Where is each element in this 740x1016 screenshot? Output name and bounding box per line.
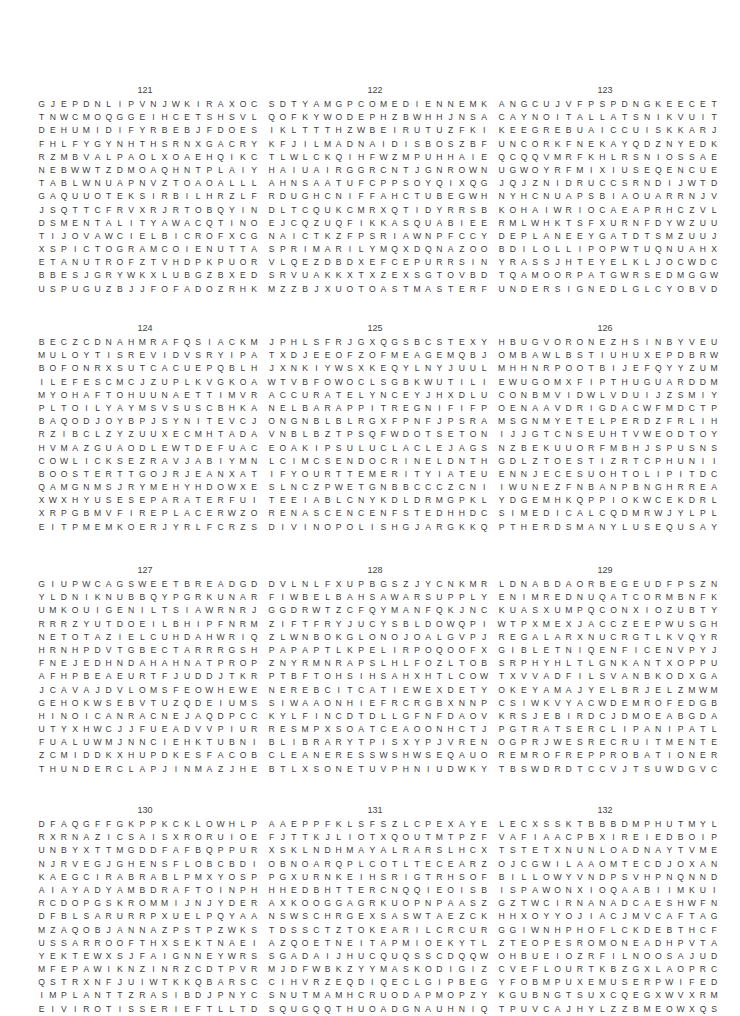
- grid-letter: P: [170, 591, 181, 604]
- grid-letter: D: [586, 710, 597, 723]
- grid-letter: J: [47, 98, 58, 111]
- grid-letter: O: [344, 723, 355, 736]
- grid-letter: S: [159, 684, 170, 697]
- grid-letter: P: [204, 362, 215, 375]
- grid-letter: S: [423, 591, 434, 604]
- grid-letter: J: [518, 428, 529, 441]
- grid-letter: Y: [81, 138, 92, 151]
- grid-letter: I: [709, 884, 720, 897]
- grid-letter: R: [563, 897, 574, 910]
- grid-letter: P: [226, 963, 237, 976]
- grid-letter: O: [467, 670, 478, 683]
- grid-letter: J: [608, 710, 619, 723]
- grid-letter: O: [277, 111, 288, 124]
- grid-letter: J: [344, 618, 355, 631]
- grid-letter: T: [137, 138, 148, 151]
- grid-letter: I: [479, 124, 490, 137]
- grid-letter: B: [675, 831, 686, 844]
- grid-letter: I: [311, 710, 322, 723]
- grid-letter: N: [266, 230, 277, 243]
- grid-letter: R: [574, 710, 585, 723]
- grid-letter: F: [36, 736, 47, 749]
- grid-letter: G: [597, 230, 608, 243]
- grid-letter: A: [193, 710, 204, 723]
- grid-letter: R: [36, 897, 47, 910]
- grid-letter: R: [148, 124, 159, 137]
- grid-letter: L: [333, 831, 344, 844]
- grid-letter: C: [597, 204, 608, 217]
- grid-letter: U: [608, 217, 619, 230]
- grid-letter: N: [456, 697, 467, 710]
- grid-letter: F: [356, 177, 367, 190]
- grid-letter: A: [159, 362, 170, 375]
- grid-letter: V: [456, 269, 467, 282]
- grid-letter: T: [333, 1003, 344, 1016]
- grid-letter: G: [277, 604, 288, 617]
- grid-letter: U: [367, 442, 378, 455]
- grid-letter: X: [479, 644, 490, 657]
- grid-letter: J: [479, 349, 490, 362]
- grid-letter: W: [137, 578, 148, 591]
- grid-letter: O: [356, 924, 367, 937]
- grid-letter: S: [159, 858, 170, 871]
- grid-letter: S: [181, 924, 192, 937]
- grid-letter: E: [277, 494, 288, 507]
- grid-letter: N: [686, 736, 697, 749]
- grid-letter: L: [333, 494, 344, 507]
- grid-letter: R: [530, 723, 541, 736]
- grid-letter: G: [411, 871, 422, 884]
- grid-letter: M: [507, 349, 518, 362]
- grid-letter: S: [288, 924, 299, 937]
- grid-letter: X: [367, 269, 378, 282]
- grid-letter: I: [126, 217, 137, 230]
- grid-letter: D: [697, 138, 708, 151]
- grid-letter: Z: [664, 389, 675, 402]
- grid-letter: S: [58, 937, 69, 950]
- grid-letter: E: [630, 937, 641, 950]
- grid-letter: S: [378, 670, 389, 683]
- grid-letter: A: [322, 389, 333, 402]
- grid-letter: A: [322, 243, 333, 256]
- grid-letter: P: [445, 591, 456, 604]
- grid-letter: O: [496, 858, 507, 871]
- grid-letter: R: [541, 138, 552, 151]
- grid-letter: L: [356, 631, 367, 644]
- grid-letter: J: [641, 442, 652, 455]
- grid-letter: F: [277, 468, 288, 481]
- grid-letter: D: [344, 138, 355, 151]
- grid-letter: K: [467, 763, 478, 776]
- grid-letter: U: [58, 763, 69, 776]
- grid-letter: C: [507, 151, 518, 164]
- grid-letter: N: [709, 897, 720, 910]
- grid-letter: T: [630, 455, 641, 468]
- grid-letter: F: [277, 138, 288, 151]
- grid-letter: T: [456, 428, 467, 441]
- grid-letter: R: [148, 455, 159, 468]
- grid-letter: E: [277, 684, 288, 697]
- grid-letter: O: [114, 256, 125, 269]
- grid-letter: I: [237, 631, 248, 644]
- grid-letter: V: [277, 578, 288, 591]
- grid-letter: N: [608, 481, 619, 494]
- grid-letter: Q: [311, 1003, 322, 1016]
- grid-letter: O: [47, 468, 58, 481]
- grid-letter: B: [333, 256, 344, 269]
- grid-letter: T: [518, 897, 529, 910]
- grid-letter: H: [126, 389, 137, 402]
- grid-letter: J: [181, 897, 192, 910]
- grid-letter: A: [709, 937, 720, 950]
- grid-letter: E: [159, 723, 170, 736]
- grid-letter: F: [344, 349, 355, 362]
- grid-letter: A: [378, 844, 389, 857]
- grid-letter: P: [411, 256, 422, 269]
- grid-letter: E: [434, 818, 445, 831]
- grid-letter: S: [709, 442, 720, 455]
- grid-letter: E: [288, 749, 299, 762]
- grid-letter: G: [70, 481, 81, 494]
- grid-letter: R: [159, 884, 170, 897]
- grid-letter: J: [277, 831, 288, 844]
- grid-letter: P: [456, 989, 467, 1002]
- grid-letter: E: [653, 521, 664, 534]
- grid-letter: S: [686, 151, 697, 164]
- grid-letter: A: [530, 402, 541, 415]
